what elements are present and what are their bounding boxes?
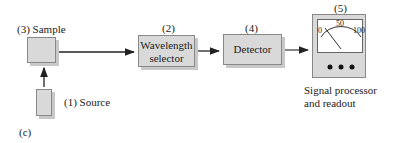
meter-gauge — [0, 0, 394, 143]
meter-knob-icon — [339, 65, 344, 70]
readout-label-line2: and readout — [304, 97, 356, 109]
meter-scale-mid: 50 — [336, 18, 344, 30]
meter-scale-max: 100 — [353, 25, 365, 37]
meter-knob-icon — [350, 65, 355, 70]
meter-scale-min: 0 — [318, 25, 322, 37]
readout-label-line1: Signal processor — [304, 84, 377, 96]
meter-needle-icon — [325, 28, 341, 49]
meter-knob-icon — [328, 65, 333, 70]
